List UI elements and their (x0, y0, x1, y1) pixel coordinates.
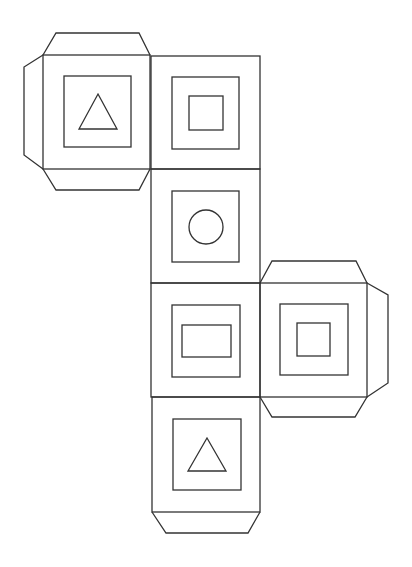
face-outer-square (151, 56, 260, 169)
face-inner-frame (173, 419, 241, 490)
cube-net-svg (0, 0, 412, 567)
triangle-icon (79, 94, 117, 129)
glue-flap-top (43, 33, 150, 55)
glue-flap-bottom (152, 512, 260, 533)
face-inner-frame (172, 77, 239, 149)
glue-flap-top (260, 261, 367, 283)
face-right (260, 261, 388, 417)
face-inner-frame (64, 76, 131, 147)
square-icon (189, 96, 223, 130)
face-outer-square (151, 169, 260, 283)
face-outer-square (43, 55, 150, 169)
face-column-3 (151, 283, 260, 397)
face-column-1 (151, 56, 260, 169)
rectangle-icon (182, 325, 231, 357)
glue-flap-left (24, 55, 43, 169)
glue-flap-right (367, 283, 388, 397)
face-inner-frame (280, 304, 348, 375)
cube-net-diagram (0, 0, 412, 567)
face-column-4 (152, 397, 260, 533)
face-inner-frame (172, 191, 239, 262)
triangle-icon (188, 438, 226, 471)
circle-icon (189, 210, 223, 244)
face-outer-square (260, 283, 367, 397)
face-top-left (24, 33, 150, 190)
glue-flap-bottom (260, 397, 367, 417)
square-icon (297, 323, 330, 356)
face-column-2 (151, 169, 260, 283)
face-outer-square (151, 283, 260, 397)
face-outer-square (152, 397, 260, 512)
glue-flap-bottom (43, 169, 150, 190)
